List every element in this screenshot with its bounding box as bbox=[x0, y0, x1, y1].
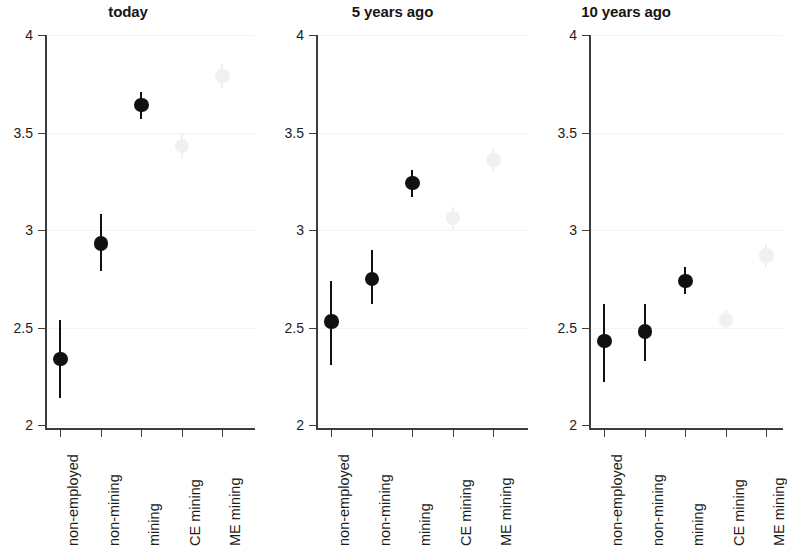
data-point-marker bbox=[134, 98, 148, 112]
data-point-marker bbox=[405, 176, 419, 190]
y-tick-label: 4 bbox=[541, 28, 577, 42]
data-point-marker bbox=[486, 153, 500, 167]
gridline-y bbox=[589, 35, 783, 36]
data-point-marker bbox=[365, 272, 379, 286]
y-tick-mark bbox=[309, 133, 316, 134]
y-tick-label: 3.5 bbox=[0, 126, 33, 140]
chart-panel-2: 5 years ago bbox=[256, 0, 529, 551]
y-tick-label: 2.5 bbox=[541, 321, 577, 335]
y-tick-mark bbox=[582, 35, 589, 36]
data-point-marker bbox=[215, 69, 229, 83]
x-tick-mark bbox=[726, 429, 727, 437]
data-point-marker bbox=[597, 334, 611, 348]
chart-panel-3: 10 years ago bbox=[529, 0, 723, 551]
y-tick-mark bbox=[38, 133, 45, 134]
gridline-y bbox=[589, 230, 783, 231]
y-tick-mark bbox=[582, 328, 589, 329]
x-tick-label: mining bbox=[691, 503, 706, 546]
y-tick-mark bbox=[582, 425, 589, 426]
x-tick-mark bbox=[493, 429, 494, 437]
gridline-y bbox=[589, 133, 783, 134]
y-tick-mark bbox=[38, 425, 45, 426]
y-tick-mark bbox=[582, 133, 589, 134]
y-tick-label: 2 bbox=[0, 418, 33, 432]
y-tick-mark bbox=[38, 328, 45, 329]
y-tick-mark bbox=[309, 328, 316, 329]
x-tick-label: non-mining bbox=[107, 474, 122, 546]
gridline-y bbox=[316, 35, 528, 36]
gridline-y bbox=[45, 328, 255, 329]
x-tick-mark bbox=[453, 429, 454, 437]
gridline-y bbox=[589, 328, 783, 329]
gridline-y bbox=[589, 425, 783, 426]
y-tick-label: 3 bbox=[268, 223, 304, 237]
x-tick-label: mining bbox=[147, 503, 162, 546]
x-tick-mark bbox=[141, 429, 142, 437]
gridline-y bbox=[45, 35, 255, 36]
x-tick-mark bbox=[645, 429, 646, 437]
x-tick-label: CE mining bbox=[188, 479, 203, 546]
y-tick-label: 3.5 bbox=[541, 126, 577, 140]
x-tick-mark bbox=[604, 429, 605, 437]
data-point-marker bbox=[759, 248, 773, 262]
panel-title: 10 years ago bbox=[529, 3, 723, 20]
gridline-y bbox=[316, 425, 528, 426]
data-point-marker bbox=[678, 274, 692, 288]
y-tick-label: 4 bbox=[268, 28, 304, 42]
y-tick-label: 2.5 bbox=[0, 321, 33, 335]
y-tick-mark bbox=[309, 230, 316, 231]
y-tick-mark bbox=[582, 230, 589, 231]
y-tick-mark bbox=[38, 35, 45, 36]
y-tick-label: 3 bbox=[0, 223, 33, 237]
x-axis-line bbox=[45, 428, 255, 430]
x-tick-label: CE mining bbox=[732, 479, 747, 546]
x-tick-label: mining bbox=[418, 503, 433, 546]
x-tick-label: non-employed bbox=[66, 454, 81, 546]
gridline-y bbox=[316, 133, 528, 134]
y-tick-mark bbox=[309, 35, 316, 36]
x-tick-mark bbox=[222, 429, 223, 437]
panel-title: 5 years ago bbox=[256, 3, 529, 20]
y-tick-label: 2 bbox=[541, 418, 577, 432]
x-tick-mark bbox=[685, 429, 686, 437]
panel-title: today bbox=[0, 3, 256, 20]
data-point-marker bbox=[53, 352, 67, 366]
x-tick-label: CE mining bbox=[459, 479, 474, 546]
gridline-y bbox=[316, 230, 528, 231]
gridline-y bbox=[45, 425, 255, 426]
y-tick-mark bbox=[38, 230, 45, 231]
x-tick-label: ME mining bbox=[499, 478, 514, 547]
x-tick-mark bbox=[766, 429, 767, 437]
data-point-marker bbox=[94, 236, 108, 250]
data-point-marker bbox=[324, 314, 338, 328]
y-tick-mark bbox=[309, 425, 316, 426]
x-tick-label: non-mining bbox=[378, 474, 393, 546]
y-tick-label: 4 bbox=[0, 28, 33, 42]
x-tick-mark bbox=[331, 429, 332, 437]
x-tick-label: non-employed bbox=[610, 454, 625, 546]
x-axis-line bbox=[316, 428, 528, 430]
x-tick-mark bbox=[412, 429, 413, 437]
data-point-marker bbox=[719, 313, 733, 327]
x-tick-label: non-mining bbox=[651, 474, 666, 546]
y-axis-line bbox=[316, 35, 318, 428]
y-tick-label: 2 bbox=[268, 418, 304, 432]
x-tick-mark bbox=[182, 429, 183, 437]
y-axis-line bbox=[45, 35, 47, 428]
x-tick-label: ME mining bbox=[772, 478, 787, 547]
gridline-y bbox=[45, 133, 255, 134]
gridline-y bbox=[45, 230, 255, 231]
y-tick-label: 3.5 bbox=[268, 126, 304, 140]
chart-panel-1: today bbox=[0, 0, 256, 551]
y-axis-line bbox=[589, 35, 591, 428]
data-point-marker bbox=[638, 324, 652, 338]
x-tick-label: non-employed bbox=[337, 454, 352, 546]
x-tick-mark bbox=[101, 429, 102, 437]
y-tick-label: 3 bbox=[541, 223, 577, 237]
x-tick-label: ME mining bbox=[228, 478, 243, 547]
x-tick-mark bbox=[60, 429, 61, 437]
y-tick-label: 2.5 bbox=[268, 321, 304, 335]
gridline-y bbox=[316, 328, 528, 329]
x-tick-mark bbox=[372, 429, 373, 437]
